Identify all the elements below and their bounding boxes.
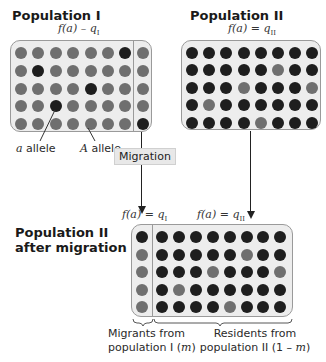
A-allele-dot xyxy=(15,100,27,112)
a-allele-dot xyxy=(203,47,215,59)
a-allele-dot xyxy=(186,47,198,59)
A-allele-dot xyxy=(272,64,284,76)
A-allele-dot xyxy=(224,301,236,313)
migration-label: Migration xyxy=(114,148,176,165)
migration-arrow-line xyxy=(141,132,142,208)
a-allele-dot xyxy=(255,47,267,59)
a-allele-dot xyxy=(274,284,286,296)
a-allele-dot xyxy=(173,301,185,313)
A-allele-dot xyxy=(119,65,131,77)
A-allele-dot xyxy=(255,117,267,129)
title-line-1: Population II xyxy=(15,225,127,240)
a-allele-dot xyxy=(190,266,202,278)
formula-text: f(a) = q xyxy=(197,208,239,221)
a-allele-dot xyxy=(224,284,236,296)
a-allele-dot xyxy=(255,99,267,111)
a-allele-dot xyxy=(156,284,168,296)
population-1-formula: f(a) – qI xyxy=(58,22,100,37)
a-allele-dot xyxy=(156,301,168,313)
migrants-caption: Migrants from population I (m) xyxy=(108,327,178,355)
A-allele-dot xyxy=(67,83,79,95)
a-allele-dot xyxy=(241,231,253,243)
formula-subscript: II xyxy=(239,215,245,223)
a-allele-dot xyxy=(136,231,148,243)
A-allele-dot xyxy=(102,65,114,77)
A-allele-dot xyxy=(119,83,131,95)
allele-text: allele xyxy=(23,142,56,155)
a-allele-dot xyxy=(274,231,286,243)
a-allele-dot xyxy=(241,266,253,278)
residents-formula: f(a) = qII xyxy=(197,208,245,223)
population-2-arrow-line xyxy=(250,131,251,213)
A-allele-dot xyxy=(137,47,149,59)
A-allele-dot xyxy=(85,100,97,112)
a-allele-dot xyxy=(207,249,219,261)
A-allele-dot xyxy=(15,65,27,77)
after-migration-panel xyxy=(131,224,293,317)
a-allele-dot xyxy=(156,231,168,243)
a-allele-dot xyxy=(241,284,253,296)
a-allele-dot xyxy=(238,64,250,76)
a-allele-dot xyxy=(306,99,318,111)
a-allele-dot xyxy=(156,249,168,261)
a-allele-dot xyxy=(238,47,250,59)
a-allele-dot xyxy=(306,64,318,76)
A-allele-dot xyxy=(173,284,185,296)
a-allele-dot xyxy=(257,249,269,261)
A-allele-dot xyxy=(306,82,318,94)
a-allele-dot xyxy=(119,47,131,59)
migrant-divider xyxy=(133,41,134,131)
population-1-panel xyxy=(10,40,152,132)
population-1-title: Population I xyxy=(12,8,100,23)
A-allele-dot xyxy=(136,284,148,296)
A-allele-dot xyxy=(67,47,79,59)
population-2-title: Population II xyxy=(190,8,283,23)
formula-text: f(a) = q xyxy=(228,22,270,35)
formula-subscript: I xyxy=(97,29,100,37)
a-allele-label: a allele xyxy=(16,142,56,155)
A-allele-dot xyxy=(203,99,215,111)
a-allele-dot xyxy=(289,117,301,129)
A-allele-dot xyxy=(50,47,62,59)
A-allele-dot xyxy=(15,118,27,130)
A-allele-dot xyxy=(136,266,148,278)
a-allele-dot xyxy=(257,284,269,296)
A-allele-dot xyxy=(102,100,114,112)
a-allele-dot xyxy=(272,99,284,111)
a-allele-dot xyxy=(186,64,198,76)
a-allele-dot xyxy=(220,47,232,59)
A-allele-dot xyxy=(102,83,114,95)
A-allele-dot xyxy=(50,83,62,95)
a-allele-dot xyxy=(207,301,219,313)
a-allele-dot xyxy=(203,64,215,76)
a-allele-dot xyxy=(220,99,232,111)
caption-line-1: Migrants from xyxy=(108,327,178,341)
a-allele-dot xyxy=(306,47,318,59)
A-allele-dot xyxy=(238,82,250,94)
A-allele-dot xyxy=(32,118,44,130)
a-allele-dot xyxy=(137,118,149,130)
a-allele-dot xyxy=(289,64,301,76)
A-allele-dot xyxy=(50,118,62,130)
population-2-arrowhead-icon xyxy=(247,211,255,219)
migrants-formula: f(a) = qI xyxy=(122,208,167,223)
A-allele-dot xyxy=(102,118,114,130)
a-allele-dot xyxy=(241,301,253,313)
a-allele-dot xyxy=(186,82,198,94)
caption-line-1: Residents from xyxy=(190,327,320,341)
a-allele-dot xyxy=(224,266,236,278)
A-allele-dot xyxy=(137,65,149,77)
A-allele-dot xyxy=(50,65,62,77)
a-allele-dot xyxy=(203,117,215,129)
a-allele-dot xyxy=(255,82,267,94)
a-allele-dot xyxy=(257,301,269,313)
a-allele-dot xyxy=(173,266,185,278)
A-allele-dot xyxy=(32,47,44,59)
A-allele-dot xyxy=(85,47,97,59)
a-allele-dot xyxy=(190,284,202,296)
a-allele-dot xyxy=(190,249,202,261)
a-allele-dot xyxy=(224,249,236,261)
a-allele-dot xyxy=(220,82,232,94)
A-allele-dot xyxy=(85,65,97,77)
a-allele-dot xyxy=(173,231,185,243)
